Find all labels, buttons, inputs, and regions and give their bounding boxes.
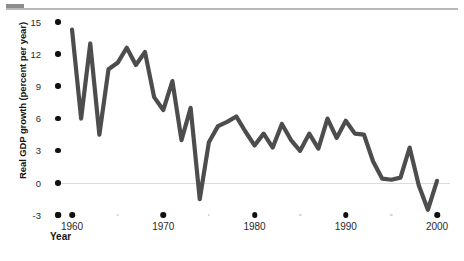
gdp-growth-line <box>72 30 437 210</box>
x-axis-tick-label: 1960 <box>61 221 83 232</box>
y-axis-tick-label: 12 <box>30 49 41 60</box>
x-axis-tick-dot <box>252 212 258 218</box>
axis-origin-dot <box>55 212 61 218</box>
y-axis-tick-dot <box>55 19 61 25</box>
y-axis-tick-label: 9 <box>36 81 41 92</box>
x-axis-tick-dot <box>69 212 75 218</box>
y-axis-tick-label: 6 <box>36 113 41 124</box>
x-axis-tick-label: 2000 <box>426 221 448 232</box>
x-axis-tick-dot <box>343 212 349 218</box>
x-axis-tick-label: 1990 <box>335 221 357 232</box>
y-axis-tick-dot <box>55 116 61 122</box>
y-axis-tick-dot <box>55 148 61 154</box>
y-axis-tick-label: 3 <box>36 145 41 156</box>
chart-root: Real GDP growth (percent per year) Year … <box>0 0 464 261</box>
y-axis-tick-dot <box>55 83 61 89</box>
x-axis-tick-label: 1980 <box>243 221 265 232</box>
y-axis-tick-label: 15 <box>30 17 41 28</box>
y-axis-tick-label: -3 <box>33 210 41 221</box>
x-axis-minor-tick-dot <box>390 214 393 217</box>
x-axis-minor-tick-dot <box>116 214 119 217</box>
y-axis-tick-dot <box>55 51 61 57</box>
x-axis-minor-tick-dot <box>208 214 211 217</box>
x-axis-tick-dot <box>161 212 167 218</box>
y-axis-tick-dot <box>55 180 61 186</box>
x-axis-minor-tick-dot <box>299 214 302 217</box>
x-axis-tick-label: 1970 <box>152 221 174 232</box>
x-axis-tick-dot <box>434 212 440 218</box>
y-axis-tick-label: 0 <box>36 178 41 189</box>
plot-area: 15129630-319601970198019902000 <box>0 0 464 261</box>
